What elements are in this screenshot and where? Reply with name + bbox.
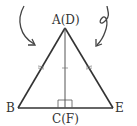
label-right: E [115, 101, 124, 115]
curved-arrow-left-icon [20, 6, 35, 45]
label-foot: C(F) [52, 112, 79, 126]
side-ab [18, 28, 65, 108]
side-ae [65, 28, 113, 108]
triangle-diagram: A(D) B C(F) E [0, 0, 137, 126]
curled-arrow-right-icon [96, 6, 108, 46]
label-left: B [6, 101, 15, 115]
label-apex: A(D) [51, 13, 80, 27]
